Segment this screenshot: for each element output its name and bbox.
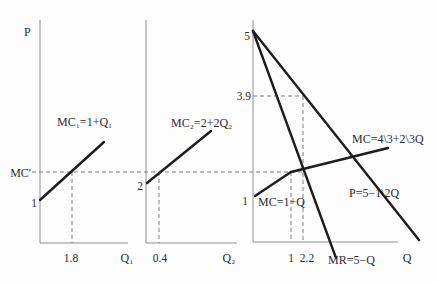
p3-aggregate-mc-label: MC=4\3+2\3Q (352, 132, 424, 146)
p3-aggregate-mc-curve (291, 148, 388, 172)
p3-x-tick-kink-label: 1 (288, 252, 294, 264)
p3-x-tick-equilibrium-label: 2.2 (300, 252, 315, 264)
p1-y-axis-label: P (24, 25, 31, 39)
p3-y-intercept-label: 1 (242, 195, 248, 207)
p3-demand-intercept-label: 5 (244, 30, 250, 42)
p1-y-intercept-label: 1 (31, 197, 37, 209)
p2-x-axis-label: Q₂ (223, 251, 236, 265)
p1-x-axis-label: Q₁ (121, 251, 134, 265)
p1-mc1-curve (40, 142, 104, 200)
p3-mc-segment-label: MC=1+Q (258, 195, 305, 209)
p3-x-axis-label: Q (403, 251, 412, 265)
p2-curve-label: MC₂=2+2Q₂ (171, 116, 232, 130)
p3-price-level-label: 3.9 (237, 90, 252, 102)
p3-mc-segment1-curve (255, 172, 291, 196)
p3-mr-label: MR=5−Q (328, 253, 375, 267)
p1-curve-label: MC₁=1+Q₁ (57, 115, 112, 129)
panel-market: 5 3.9 1 MC=1+Q MC=4\3+2\3Q P=5−1\2Q MR=5… (237, 20, 424, 267)
panel-plant1: P MC₁=1+Q₁ MC' 1 1.8 Q₁ (10, 20, 133, 265)
figure-canvas: P MC₁=1+Q₁ MC' 1 1.8 Q₁ MC₂=2+2Q₂ 2 0.4 … (0, 0, 437, 283)
p2-x-tick-label: 0.4 (153, 252, 168, 264)
p2-mc2-curve (147, 131, 211, 183)
p3-demand-label: P=5−1\2Q (349, 186, 400, 200)
p1-x-tick-label: 1.8 (64, 252, 79, 264)
panel-plant2: MC₂=2+2Q₂ 2 0.4 Q₂ (137, 20, 237, 265)
multiplant-monopoly-figure: P MC₁=1+Q₁ MC' 1 1.8 Q₁ MC₂=2+2Q₂ 2 0.4 … (0, 0, 437, 283)
p1-mc-prime-label: MC' (10, 166, 31, 180)
p2-y-intercept-label: 2 (137, 180, 143, 192)
p3-mr-curve (253, 31, 336, 258)
